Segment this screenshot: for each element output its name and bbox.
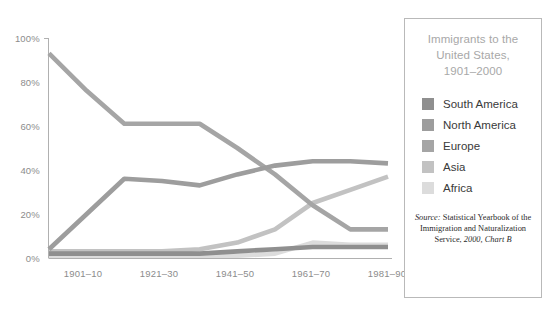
legend-swatch-icon — [422, 140, 434, 152]
chart-page: 100% 80% 60% 40% 20% 0% 1901–10 1921–30 … — [0, 0, 555, 318]
legend-item[interactable]: Asia — [422, 156, 532, 177]
legend-item-label: Asia — [443, 161, 465, 173]
y-tick-label-100: 100% — [6, 33, 40, 44]
legend-item-label: Europe — [443, 140, 480, 152]
legend-swatch-icon — [422, 98, 434, 110]
legend-swatch-icon — [422, 161, 434, 173]
y-tick-label-80: 80% — [6, 77, 40, 88]
x-tick-label-1961-70: 1961–70 — [276, 268, 346, 279]
x-tick-label-1941-50: 1941–50 — [200, 268, 270, 279]
legend-item[interactable]: North America — [422, 114, 532, 135]
legend-box: Immigrants to the United States, 1901–20… — [404, 18, 542, 298]
legend-item[interactable]: South America — [422, 93, 532, 114]
series-line — [49, 161, 388, 249]
series-line — [49, 177, 388, 252]
legend-item[interactable]: Africa — [422, 177, 532, 198]
legend-item-label: Africa — [443, 182, 472, 194]
y-tick-label-40: 40% — [6, 165, 40, 176]
source-citation: Source: Statistical Yearbook of the Immi… — [414, 212, 532, 245]
line-chart: 100% 80% 60% 40% 20% 0% 1901–10 1921–30 … — [0, 0, 400, 318]
legend-swatch-icon — [422, 119, 434, 131]
chart-title: Immigrants to the United States, 1901–20… — [414, 31, 532, 79]
y-tick-label-60: 60% — [6, 121, 40, 132]
legend-item-label: North America — [443, 119, 516, 131]
x-tick-label-1901-10: 1901–10 — [48, 268, 118, 279]
legend-items: South AmericaNorth AmericaEuropeAsiaAfri… — [422, 93, 532, 198]
chart-title-line-2: United States, — [414, 47, 532, 63]
chart-title-line-1: Immigrants to the — [414, 31, 532, 47]
source-prefix: Source: — [415, 213, 441, 222]
y-tick-label-20: 20% — [6, 209, 40, 220]
x-tick-label-1921-30: 1921–30 — [124, 268, 194, 279]
source-tail: 2000, Chart B — [462, 235, 512, 244]
legend-item[interactable]: Europe — [422, 135, 532, 156]
y-tick-label-0: 0% — [6, 253, 40, 264]
legend-item-label: South America — [443, 98, 518, 110]
chart-title-line-3: 1901–2000 — [414, 63, 532, 79]
legend-swatch-icon — [422, 182, 434, 194]
